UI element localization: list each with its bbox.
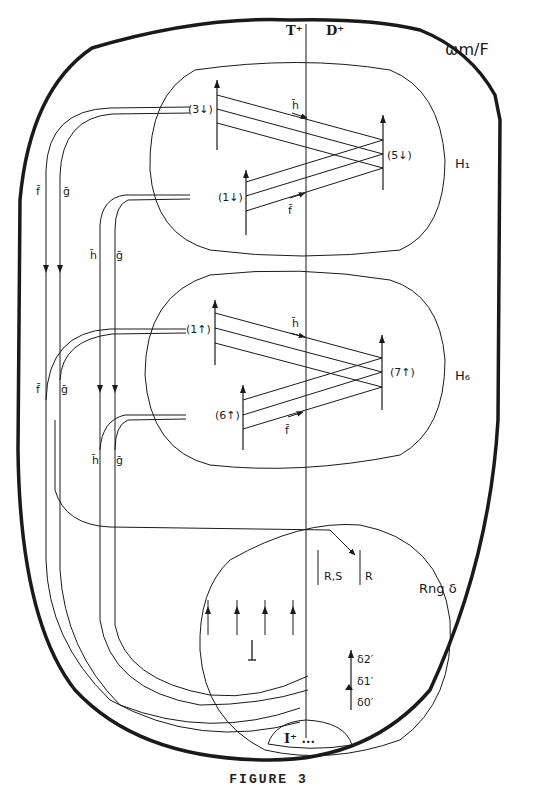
side-label-lower-g: ḡ — [61, 384, 68, 395]
side-label-upper-g2: ḡ — [116, 250, 123, 261]
figure-caption: FIGURE 3 — [0, 772, 537, 787]
node-h1-5-down: (5↓) — [387, 150, 412, 161]
rng-box-r: R — [365, 571, 373, 582]
region-label-i-plus: I⁺ ... — [284, 732, 315, 745]
side-label-lower-g2: ḡ — [116, 455, 123, 466]
region-label-h1: H₁ — [455, 157, 470, 170]
side-label-lower-f: f̄ — [36, 384, 40, 395]
side-label-upper-g: ḡ — [63, 186, 70, 197]
rng-delta-0: δ0′ — [357, 697, 373, 708]
rng-box-rs: R,S — [324, 571, 342, 582]
side-label-lower-h: h̄ — [92, 455, 99, 466]
map-label-h-bar-h6: h̄ — [292, 318, 299, 329]
node-h1-1-down: (1↓) — [218, 192, 243, 203]
region-label-h6: H₆ — [455, 369, 470, 382]
side-label-upper-h: h̄ — [90, 250, 97, 261]
figure-title: ωm/F — [445, 42, 489, 58]
map-label-f-bar-h1: f̄ — [288, 205, 292, 216]
rng-region-boundary — [200, 524, 451, 755]
column-header-d-plus: D⁺ — [326, 24, 344, 37]
node-h6-1-up: (1↑) — [186, 324, 211, 335]
node-h6-6-up: (6↑) — [215, 410, 240, 421]
node-h1-3-down: (3↓) — [188, 104, 213, 115]
outer-region-boundary — [18, 20, 500, 760]
map-label-h-bar-h1: h̄ — [292, 100, 299, 111]
map-label-f-bar-h6: f̄ — [285, 425, 289, 436]
rng-delta-2: δ2′ — [357, 654, 373, 665]
rng-delta-1: δ1′ — [357, 676, 373, 687]
node-h6-7-up: (7↑) — [390, 367, 415, 378]
column-header-t-plus: T⁺ — [286, 24, 303, 37]
region-label-rng-delta: Rng δ — [419, 582, 457, 595]
side-label-upper-f: f̄ — [36, 186, 40, 197]
